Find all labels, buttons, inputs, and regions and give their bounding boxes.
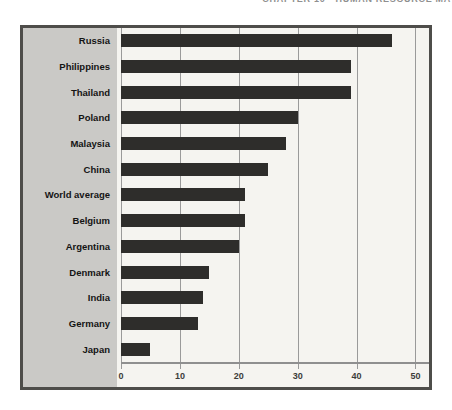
x-axis-line bbox=[121, 362, 429, 364]
tick-mark-30 bbox=[298, 364, 299, 369]
tick-label-40: 40 bbox=[345, 371, 369, 381]
category-label: World average bbox=[23, 182, 117, 208]
tick-mark-0 bbox=[121, 364, 122, 369]
tick-mark-10 bbox=[180, 364, 181, 369]
tick-label-30: 30 bbox=[286, 371, 310, 381]
bar bbox=[121, 240, 239, 253]
chart-frame: RussiaPhilippinesThailandPolandMalaysiaC… bbox=[20, 25, 432, 390]
page-header-clipped: CHAPTER 10 • HUMAN RESOURCE MA bbox=[0, 0, 451, 5]
bar bbox=[121, 137, 286, 150]
category-label: Russia bbox=[23, 28, 117, 54]
tick-mark-50 bbox=[415, 364, 416, 369]
tick-label-50: 50 bbox=[403, 371, 427, 381]
category-label: Argentina bbox=[23, 234, 117, 260]
bar bbox=[121, 60, 351, 73]
bar bbox=[121, 34, 392, 47]
tick-mark-40 bbox=[357, 364, 358, 369]
category-label: Japan bbox=[23, 336, 117, 362]
bar-row bbox=[121, 234, 429, 260]
bar bbox=[121, 291, 203, 304]
category-label: China bbox=[23, 156, 117, 182]
bar-row bbox=[121, 156, 429, 182]
bar bbox=[121, 266, 209, 279]
page: CHAPTER 10 • HUMAN RESOURCE MA RussiaPhi… bbox=[0, 0, 452, 410]
bar bbox=[121, 188, 245, 201]
bar bbox=[121, 343, 150, 356]
tick-mark-20 bbox=[239, 364, 240, 369]
bar-row bbox=[121, 131, 429, 157]
bar bbox=[121, 163, 268, 176]
bar bbox=[121, 317, 198, 330]
tick-label-20: 20 bbox=[227, 371, 251, 381]
category-label: Poland bbox=[23, 105, 117, 131]
bar-layer bbox=[121, 28, 429, 362]
bar bbox=[121, 111, 298, 124]
category-label: India bbox=[23, 285, 117, 311]
category-label: Belgium bbox=[23, 208, 117, 234]
category-label: Malaysia bbox=[23, 131, 117, 157]
bar-row bbox=[121, 54, 429, 80]
bar-row bbox=[121, 259, 429, 285]
bar bbox=[121, 214, 245, 227]
category-labels: RussiaPhilippinesThailandPolandMalaysiaC… bbox=[23, 28, 117, 362]
bar-row bbox=[121, 79, 429, 105]
bar bbox=[121, 86, 351, 99]
tick-label-0: 0 bbox=[109, 371, 133, 381]
bar-row bbox=[121, 285, 429, 311]
bar-row bbox=[121, 182, 429, 208]
tick-label-10: 10 bbox=[168, 371, 192, 381]
plot-area: 01020304050 bbox=[121, 28, 429, 387]
bar-row bbox=[121, 28, 429, 54]
bar-row bbox=[121, 105, 429, 131]
bar-row bbox=[121, 336, 429, 362]
category-label: Thailand bbox=[23, 79, 117, 105]
category-label: Denmark bbox=[23, 259, 117, 285]
category-panel: RussiaPhilippinesThailandPolandMalaysiaC… bbox=[23, 28, 117, 387]
bar-row bbox=[121, 208, 429, 234]
category-label: Germany bbox=[23, 311, 117, 337]
bar-row bbox=[121, 311, 429, 337]
category-label: Philippines bbox=[23, 54, 117, 80]
